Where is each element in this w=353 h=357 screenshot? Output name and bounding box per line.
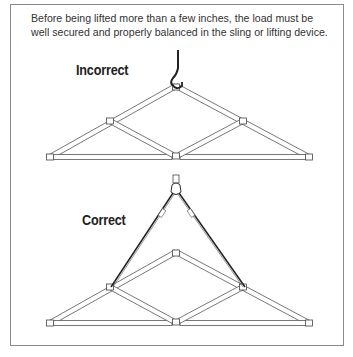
end-node-left [47,320,54,326]
web-right [178,285,244,323]
web-left [109,285,174,323]
web-left [109,119,174,157]
mid-node-left [107,118,114,124]
truss-incorrect [47,84,313,160]
end-node-left [47,154,54,160]
web-right [178,119,244,157]
sling-icon [111,175,245,287]
crane-hook-icon [171,50,182,88]
bottom-chord-left [50,321,172,326]
mid-node-right [240,118,247,124]
illustration [0,0,353,357]
truss-correct [47,250,313,326]
bottom-chord-right [180,321,309,326]
end-node-right [306,154,313,160]
apex-node [173,250,180,256]
bottom-center-node [173,153,180,159]
end-node-right [306,320,313,326]
bottom-chord-right [180,155,309,160]
bottom-center-node [173,319,180,325]
bottom-chord-left [50,155,172,160]
